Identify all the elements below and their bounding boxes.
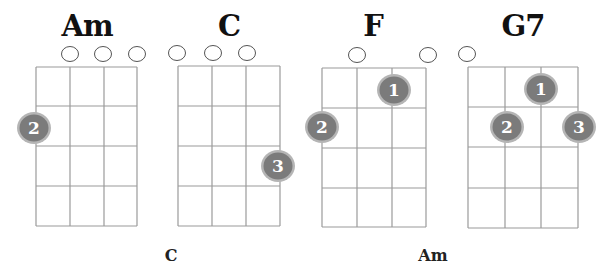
open-string-icon — [95, 47, 112, 62]
finger-dot-1: 1 — [524, 73, 558, 105]
open-string-icon — [129, 47, 146, 62]
finger-dot-2: 2 — [490, 111, 524, 143]
chord-title-c: C — [218, 10, 240, 42]
bottom-label-am: Am — [418, 246, 447, 265]
chord-diagram-c: 3 — [169, 46, 296, 227]
open-string-icon — [459, 47, 476, 62]
open-string-icon — [349, 48, 366, 63]
finger-number: 3 — [573, 117, 585, 137]
chord-diagram-g7: 123 — [459, 47, 597, 229]
finger-dot-3: 3 — [562, 111, 596, 143]
finger-number: 1 — [535, 79, 547, 99]
chord-title-g7: G7 — [502, 10, 545, 42]
finger-number: 2 — [28, 118, 40, 138]
finger-number: 2 — [501, 117, 513, 137]
open-string-icon — [239, 46, 256, 61]
chord-diagram-f: 12 — [305, 48, 437, 228]
finger-number: 3 — [272, 156, 284, 176]
finger-number: 2 — [316, 117, 328, 137]
open-string-icon — [420, 48, 437, 63]
bottom-label-c: C — [165, 246, 178, 265]
finger-dot-2: 2 — [17, 112, 51, 144]
finger-number: 1 — [388, 80, 400, 100]
finger-dot-2: 2 — [305, 111, 339, 143]
chord-title-am: Am — [61, 10, 112, 42]
open-string-icon — [205, 46, 222, 61]
chord-title-f: F — [363, 10, 383, 42]
open-string-icon — [169, 46, 186, 61]
fretboard-grid — [178, 66, 280, 226]
finger-dot-1: 1 — [377, 74, 411, 106]
open-string-icon — [62, 47, 79, 62]
fretboard-grid — [36, 67, 137, 226]
chord-diagram-am: 2 — [17, 47, 146, 227]
finger-dot-3: 3 — [261, 150, 295, 182]
fretboard-grid — [468, 67, 578, 228]
